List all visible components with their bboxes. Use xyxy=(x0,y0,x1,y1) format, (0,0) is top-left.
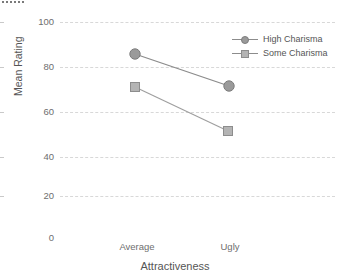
x-tick-label-average: Average xyxy=(119,241,154,252)
legend-entry-high-charisma: High Charisma xyxy=(232,33,328,45)
series-some-charisma xyxy=(131,83,233,136)
series-high-charisma xyxy=(130,49,234,91)
x-tick-label-ugly: Ugly xyxy=(220,241,239,252)
legend-label-high-charisma: High Charisma xyxy=(263,34,323,44)
line-chart: Mean Rating 100 80 60 40 20 0 Average Ug… xyxy=(0,0,350,280)
legend-entry-some-charisma: Some Charisma xyxy=(232,47,328,59)
line-segment-high-charisma xyxy=(135,54,229,86)
square-marker-icon xyxy=(232,48,258,59)
legend: High Charisma Some Charisma xyxy=(232,33,328,61)
circle-marker-icon xyxy=(232,34,258,45)
data-point-high-charisma-ugly xyxy=(224,81,234,91)
data-point-high-charisma-average xyxy=(130,49,140,59)
x-axis-title: Attractiveness xyxy=(140,260,209,272)
line-segment-some-charisma xyxy=(135,87,228,131)
data-point-some-charisma-average xyxy=(131,83,140,92)
data-point-some-charisma-ugly xyxy=(224,127,233,136)
legend-label-some-charisma: Some Charisma xyxy=(263,48,328,58)
